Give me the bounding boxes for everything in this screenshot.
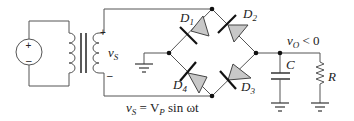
d3-label: D3 (240, 79, 255, 96)
d2-label: D2 (242, 6, 257, 23)
bridge-ground (135, 53, 169, 72)
d4-label: D4 (172, 77, 187, 94)
source-equation: vS = VP sin ωt (126, 100, 199, 117)
vs-label: vS (108, 45, 119, 62)
source-plus: + (26, 40, 32, 51)
ac-source: + – (16, 21, 69, 86)
diode-d3: D3 (220, 64, 255, 96)
resistor-label: R (327, 69, 336, 84)
output-voltage-label: vO < 0 (287, 33, 320, 50)
d1-label: D1 (179, 10, 194, 27)
diode-d2: D2 (218, 6, 257, 42)
diode-d4: D4 (172, 62, 207, 94)
bridge-rectifier-diagram: + – + – vS D1 D2 (0, 0, 354, 121)
secondary-minus: – (107, 70, 113, 81)
output-network: C R vO < 0 (256, 33, 336, 111)
capacitor-label: C (286, 57, 295, 72)
source-minus: – (26, 55, 32, 66)
diode-d1: D1 (179, 10, 209, 44)
secondary-plus: + (100, 27, 106, 38)
